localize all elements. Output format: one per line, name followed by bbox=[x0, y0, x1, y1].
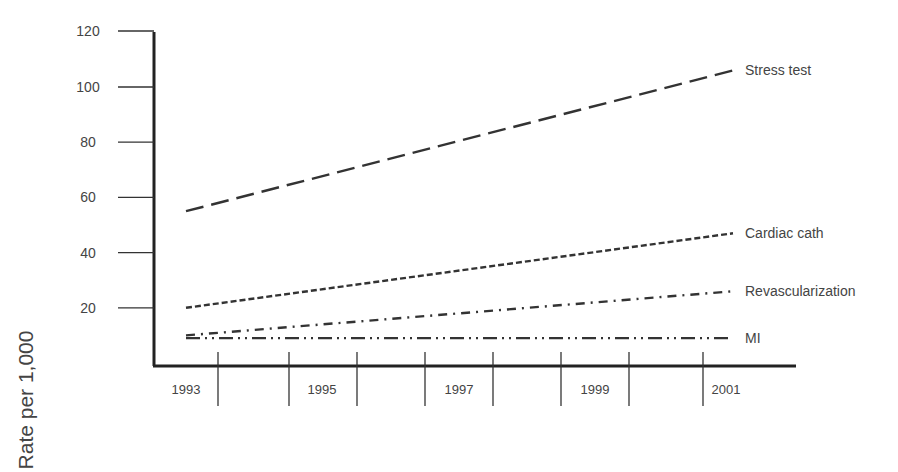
x-tick-label: 1997 bbox=[445, 382, 474, 397]
y-tick-label: 100 bbox=[76, 79, 100, 95]
x-tick-label: 2001 bbox=[712, 382, 741, 397]
x-tick-label: 1993 bbox=[172, 382, 201, 397]
y-tick-label: 120 bbox=[76, 23, 100, 39]
series-label: Revascularization bbox=[745, 283, 856, 299]
y-tick-label: 20 bbox=[80, 300, 96, 316]
series-line-revascularization bbox=[186, 291, 733, 335]
series-label: MI bbox=[745, 330, 761, 346]
series-label: Cardiac cath bbox=[745, 225, 824, 241]
x-tick-label: 1995 bbox=[308, 382, 337, 397]
y-tick-label: 40 bbox=[80, 245, 96, 261]
y-tick-label: 60 bbox=[80, 189, 96, 205]
series-line-cardiac-cath bbox=[186, 233, 733, 308]
series-label: Stress test bbox=[745, 62, 811, 78]
series-line-stress-test bbox=[186, 70, 733, 211]
x-tick-label: 1999 bbox=[581, 382, 610, 397]
y-tick-label: 80 bbox=[80, 134, 96, 150]
